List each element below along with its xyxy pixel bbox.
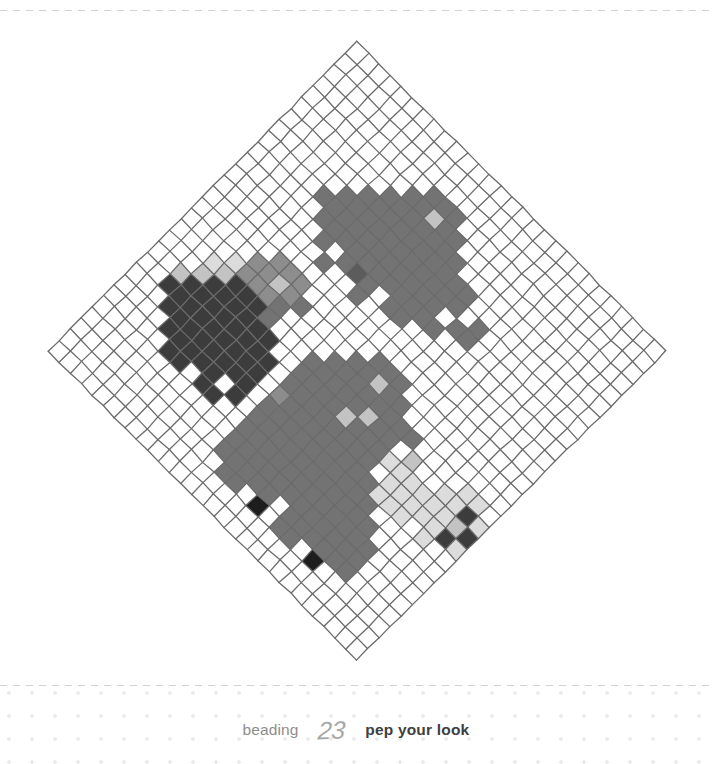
- beading-chart-svg: [0, 0, 712, 686]
- page-number: 23: [317, 715, 346, 745]
- page-root: beading 23 pep your look: [0, 0, 712, 764]
- craft-label: beading: [243, 721, 299, 739]
- bead-cell: [313, 252, 335, 273]
- beading-chart-artwork: [0, 0, 712, 686]
- tagline-label: pep your look: [365, 721, 469, 739]
- footer-caption: beading 23 pep your look: [0, 710, 712, 750]
